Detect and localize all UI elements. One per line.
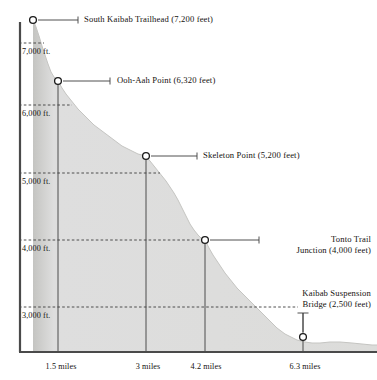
elevation-profile-chart: South Kaibab Trailhead (7,200 feet) Ooh-… — [0, 0, 377, 380]
annotation-south-kaibab-trailhead: South Kaibab Trailhead (7,200 feet) — [84, 14, 213, 25]
marker-kaibab-suspension-bridge — [300, 334, 307, 341]
y-tick-label-6000: 6,000 ft. — [22, 109, 50, 118]
y-tick-label-5000: 5,000 ft. — [22, 177, 50, 186]
x-tick-label-3-miles: 3 miles — [136, 362, 161, 371]
x-tick-label-6-3-miles: 6.3 miles — [290, 362, 321, 371]
annotation-skeleton-point: Skeleton Point (5,200 feet) — [203, 150, 300, 161]
annotation-tonto-trail-junction: Tonto Trail Junction (4,000 feet) — [236, 234, 377, 257]
chart-canvas — [0, 0, 377, 380]
y-tick-label-3000: 3,000 ft. — [22, 311, 50, 320]
y-tick-label-4000: 4,000 ft. — [22, 244, 50, 253]
x-tick-label-1-5-miles: 1.5 miles — [46, 362, 77, 371]
marker-skeleton-point — [143, 153, 150, 160]
annotation-ooh-aah-point: Ooh-Aah Point (6,320 feet) — [117, 75, 215, 86]
annotation-bridge-line-2: Bridge (2,500 feet) — [236, 299, 377, 310]
y-tick-label-7000: 7,000 ft. — [22, 47, 50, 56]
annotation-tonto-line-2: Junction (4,000 feet) — [236, 245, 377, 256]
annotation-tonto-line-1: Tonto Trail — [236, 234, 377, 245]
annotation-kaibab-suspension-bridge: Kaibab Suspension Bridge (2,500 feet) — [236, 288, 377, 311]
marker-tonto-trail-junction — [202, 237, 209, 244]
marker-ooh-aah-point — [55, 78, 62, 85]
marker-south-kaibab-trailhead — [30, 17, 37, 24]
x-tick-label-4-2-miles: 4.2 miles — [191, 362, 222, 371]
annotation-bridge-line-1: Kaibab Suspension — [236, 288, 377, 299]
